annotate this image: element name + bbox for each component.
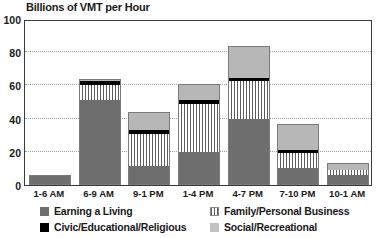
bar-segment bbox=[277, 168, 319, 185]
bar-segment bbox=[128, 112, 170, 130]
bar-segment bbox=[29, 175, 71, 185]
legend-swatch-civic-icon bbox=[40, 223, 49, 232]
bar-1-6-am[interactable] bbox=[29, 175, 71, 185]
bar-segment bbox=[327, 170, 369, 175]
x-tick-label: 9-1 PM bbox=[123, 188, 173, 200]
legend-swatch-social-icon bbox=[210, 223, 219, 232]
bars-layer bbox=[25, 21, 371, 185]
bar-segment bbox=[228, 78, 270, 81]
bar-4-7-pm[interactable] bbox=[228, 46, 270, 185]
chart-title: Billions of VMT per Hour bbox=[26, 1, 150, 14]
bar-segment bbox=[178, 84, 220, 100]
bar-segment bbox=[79, 85, 121, 99]
x-tick-label: 1-4 PM bbox=[173, 188, 223, 200]
y-tick-label: 40 bbox=[0, 114, 21, 126]
x-tick-label: 7-10 PM bbox=[273, 188, 323, 200]
x-axis: 1-6 AM6-9 AM9-1 PM1-4 PM4-7 PM7-10 PM10-… bbox=[24, 188, 372, 202]
x-tick-label: 6-9 AM bbox=[74, 188, 124, 200]
bar-segment bbox=[128, 166, 170, 185]
y-tick-label: 20 bbox=[0, 147, 21, 159]
bar-segment bbox=[228, 46, 270, 78]
legend-label: Civic/Educational/Religious bbox=[54, 221, 186, 233]
x-tick-label: 10-1 AM bbox=[322, 188, 372, 200]
bar-segment bbox=[79, 81, 121, 85]
legend-label: Family/Personal Business bbox=[224, 205, 349, 217]
legend-item[interactable]: Earning a Living bbox=[40, 205, 132, 217]
bar-segment bbox=[178, 152, 220, 185]
legend-item[interactable]: Social/Recreational bbox=[210, 221, 317, 233]
bar-segment bbox=[327, 163, 369, 170]
bar-segment bbox=[178, 104, 220, 152]
chart-container: Billions of VMT per Hour 020406080100 1-… bbox=[0, 0, 376, 238]
bar-segment bbox=[178, 100, 220, 104]
bar-segment bbox=[327, 175, 369, 185]
y-tick-label: 60 bbox=[0, 80, 21, 92]
bar-segment bbox=[128, 130, 170, 133]
x-tick-label: 4-7 PM bbox=[223, 188, 273, 200]
bar-segment bbox=[277, 150, 319, 153]
bar-segment bbox=[79, 100, 121, 185]
legend-item[interactable]: Civic/Educational/Religious bbox=[40, 221, 186, 233]
y-tick-label: 0 bbox=[0, 180, 21, 192]
legend-item[interactable]: Family/Personal Business bbox=[210, 205, 349, 217]
bar-9-1-pm[interactable] bbox=[128, 112, 170, 185]
bar-segment bbox=[79, 79, 121, 81]
legend-swatch-earning-icon bbox=[40, 207, 49, 216]
bar-segment bbox=[128, 134, 170, 166]
bar-6-9-am[interactable] bbox=[79, 79, 121, 185]
y-tick-label: 80 bbox=[0, 47, 21, 59]
bar-7-10-pm[interactable] bbox=[277, 124, 319, 185]
chart-legend: Earning a LivingFamily/Personal Business… bbox=[40, 205, 370, 237]
bar-1-4-pm[interactable] bbox=[178, 84, 220, 185]
plot-area bbox=[24, 20, 372, 186]
legend-swatch-family-icon bbox=[210, 207, 219, 216]
bar-segment bbox=[277, 153, 319, 168]
legend-label: Social/Recreational bbox=[224, 221, 317, 233]
x-tick-label: 1-6 AM bbox=[24, 188, 74, 200]
bar-segment bbox=[277, 124, 319, 151]
legend-label: Earning a Living bbox=[54, 205, 132, 217]
bar-segment bbox=[228, 119, 270, 185]
bar-segment bbox=[228, 81, 270, 119]
bar-10-1-am[interactable] bbox=[327, 163, 369, 185]
y-tick-label: 100 bbox=[0, 14, 21, 26]
